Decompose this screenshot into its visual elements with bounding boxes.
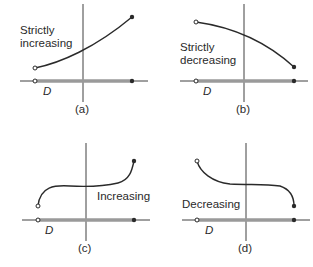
panel-caption: (a) (75, 103, 89, 115)
panel-d: Decreasing D (d) (182, 143, 310, 254)
domain-label: D (205, 224, 213, 236)
curve-label: Strictly (20, 24, 55, 36)
domain-closed-endpoint (292, 218, 296, 222)
open-endpoint (33, 66, 37, 70)
open-endpoint (195, 159, 199, 163)
curve-label: Strictly (180, 41, 215, 53)
open-endpoint (36, 204, 40, 208)
domain-closed-endpoint (292, 79, 296, 83)
panel-caption: (c) (78, 242, 92, 254)
domain-label: D (45, 224, 53, 236)
open-endpoint (194, 20, 198, 24)
monotonic-functions-figure: Strictly increasing D (a) Strictly decre… (0, 0, 313, 267)
domain-open-endpoint (36, 218, 40, 222)
domain-label: D (43, 85, 51, 97)
domain-open-endpoint (33, 79, 37, 83)
panel-a: Strictly increasing D (a) (20, 4, 148, 115)
domain-closed-endpoint (132, 218, 136, 222)
panel-caption: (d) (238, 242, 252, 254)
closed-endpoint (292, 204, 296, 208)
curve-label: increasing (20, 37, 72, 49)
closed-endpoint (292, 65, 296, 69)
domain-closed-endpoint (130, 79, 134, 83)
panel-b: Strictly decreasing D (b) (180, 4, 308, 115)
domain-open-endpoint (194, 79, 198, 83)
domain-label: D (203, 85, 211, 97)
curve-label: Increasing (97, 190, 150, 202)
domain-open-endpoint (195, 218, 199, 222)
panel-c: Increasing D (c) (22, 143, 150, 254)
closed-endpoint (130, 15, 134, 19)
curve-label: Decreasing (182, 198, 240, 210)
closed-endpoint (132, 159, 136, 163)
panel-caption: (b) (236, 103, 250, 115)
curve-label: decreasing (180, 54, 236, 66)
